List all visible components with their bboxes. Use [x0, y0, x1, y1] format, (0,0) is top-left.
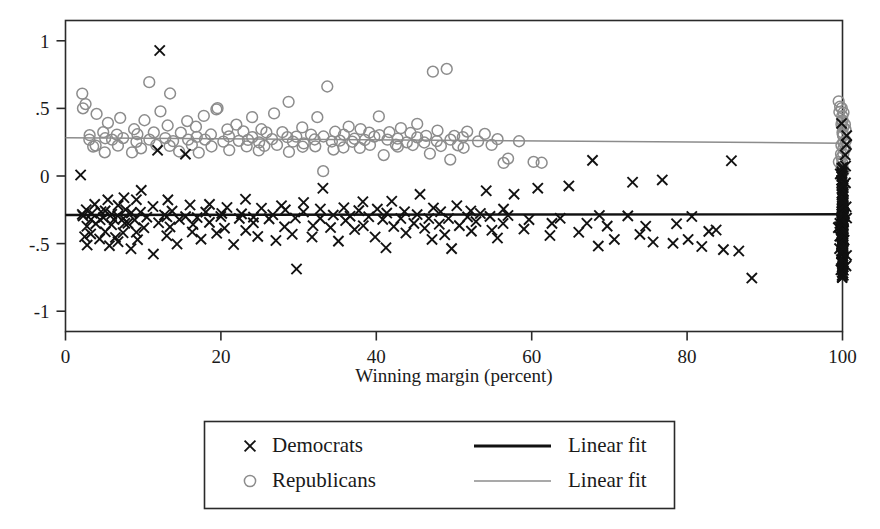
- x-tick-label: 20: [211, 346, 230, 367]
- y-tick-label: 1: [40, 31, 50, 52]
- legend-label-democrats: Democrats: [272, 433, 363, 457]
- x-tick-label: 40: [367, 346, 386, 367]
- x-tick-label: 60: [522, 346, 541, 367]
- legend-label-republicans: Republicans: [272, 468, 376, 492]
- figure-background: [0, 0, 880, 529]
- legend-label-linear-fit: Linear fit: [568, 468, 647, 492]
- scatter-plot-figure: 1.50-.5-1 020406080100 Winning margin (p…: [0, 0, 880, 529]
- y-tick-label: .5: [35, 98, 49, 119]
- legend-label-linear-fit: Linear fit: [568, 433, 647, 457]
- linear-fit-line: [66, 214, 843, 215]
- unopposed-column-density: [836, 162, 848, 282]
- y-tick-label: -.5: [29, 234, 50, 255]
- x-tick-label: 80: [678, 346, 697, 367]
- x-tick-label: 0: [61, 346, 71, 367]
- x-tick-label: 100: [828, 346, 857, 367]
- x-axis-title: Winning margin (percent): [355, 365, 552, 387]
- plot-canvas: 1.50-.5-1 020406080100 Winning margin (p…: [0, 0, 880, 529]
- y-tick-label: 0: [40, 166, 50, 187]
- y-tick-label: -1: [34, 301, 50, 322]
